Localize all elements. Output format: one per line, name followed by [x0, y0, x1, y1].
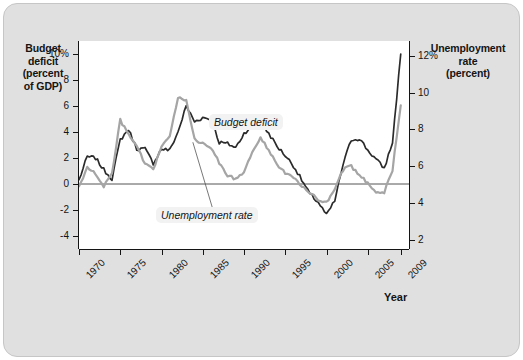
left-tick-label-5: 0	[37, 178, 69, 189]
right-tick-label-1: 10	[418, 87, 450, 98]
left-tick-mark-6	[73, 210, 78, 211]
left-tick-label-4: 2	[37, 152, 69, 163]
right-tick-label-0: 12%	[418, 50, 450, 61]
right-tick-mark-1	[410, 93, 415, 94]
annotation-unemployment-rate: Unemployment rate	[156, 207, 258, 223]
x-tick-mark-5	[285, 250, 286, 255]
right-tick-mark-2	[410, 129, 415, 130]
left-tick-mark-5	[73, 184, 78, 185]
x-tick-label-1: 1975	[125, 257, 149, 281]
x-tick-label-8: 2009	[406, 257, 430, 281]
left-tick-mark-7	[73, 236, 78, 237]
x-tick-label-4: 1990	[249, 257, 273, 281]
x-tick-mark-4	[244, 250, 245, 255]
leader-unemployment-rate	[193, 142, 215, 217]
right-tick-label-2: 8	[418, 123, 450, 134]
x-tick-mark-2	[162, 250, 163, 255]
figure-card: Budget deficit (percent of GDP) Unemploy…	[3, 3, 520, 357]
x-tick-mark-7	[368, 250, 369, 255]
right-axis-line	[409, 41, 410, 249]
x-tick-mark-0	[79, 250, 80, 255]
x-tick-mark-3	[203, 250, 204, 255]
annotation-budget-deficit: Budget deficit	[209, 114, 283, 130]
x-tick-label-5: 1995	[290, 257, 314, 281]
right-tick-mark-3	[410, 166, 415, 167]
left-tick-mark-2	[73, 106, 78, 107]
left-tick-label-2: 6	[37, 100, 69, 111]
left-tick-label-6: -2	[37, 204, 69, 215]
x-tick-label-2: 1980	[167, 257, 191, 281]
left-tick-label-3: 4	[37, 126, 69, 137]
left-tick-label-0: 10%	[37, 48, 69, 59]
right-tick-mark-5	[410, 240, 415, 241]
x-tick-mark-6	[327, 250, 328, 255]
left-tick-label-1: 8	[37, 74, 69, 85]
x-tick-mark-8	[401, 250, 402, 255]
left-tick-mark-3	[73, 132, 78, 133]
x-axis-label: Year	[384, 291, 407, 303]
right-tick-label-5: 2	[418, 234, 450, 245]
chart-figure: Budget deficit (percent of GDP) Unemploy…	[4, 4, 520, 357]
right-tick-mark-4	[410, 203, 415, 204]
left-tick-mark-0	[73, 54, 78, 55]
x-tick-label-7: 2005	[373, 257, 397, 281]
x-tick-label-6: 2000	[332, 257, 356, 281]
right-tick-label-4: 4	[418, 197, 450, 208]
x-tick-label-3: 1985	[208, 257, 232, 281]
left-tick-label-7: -4	[37, 230, 69, 241]
left-axis-line	[78, 41, 79, 249]
x-tick-label-0: 1970	[84, 257, 108, 281]
left-tick-mark-4	[73, 158, 78, 159]
left-tick-mark-1	[73, 80, 78, 81]
right-tick-mark-0	[410, 56, 415, 57]
x-tick-mark-1	[120, 250, 121, 255]
right-tick-label-3: 6	[418, 160, 450, 171]
right-axis-title-line-3: (percent)	[418, 67, 518, 80]
